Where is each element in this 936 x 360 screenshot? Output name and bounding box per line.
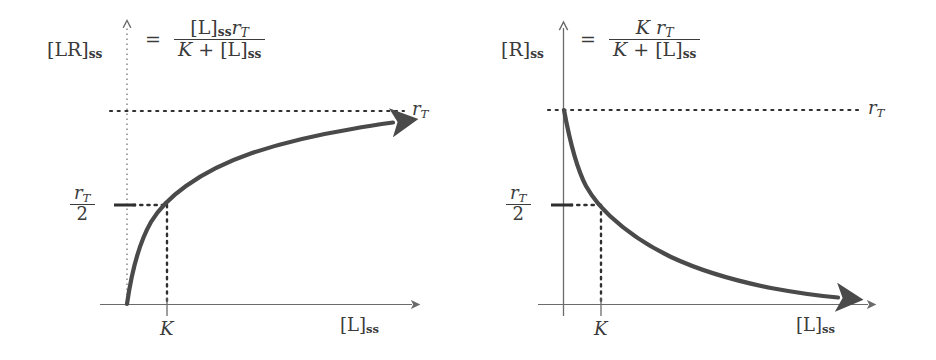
den-k-left: K <box>178 38 192 60</box>
y-axis-label-left-sub: ss <box>89 47 103 61</box>
y-axis-label-right-sub: ss <box>530 47 544 61</box>
num-k-right: K <box>636 16 650 38</box>
x-axis-label-left-base: [L] <box>340 314 366 335</box>
half-max-num-base-right: r <box>510 182 519 203</box>
den-plus-right: + <box>633 38 649 60</box>
x-axis-label-left-sub: ss <box>366 322 379 336</box>
asymptote-label-left-sub: T <box>421 107 429 121</box>
equation-left-relation: = <box>145 30 161 49</box>
equation-left-fraction: [L]ssrT K + [L]ss <box>174 18 265 61</box>
y-axis-label-left: [LR]ss <box>47 40 102 61</box>
asymptote-label-right-base: r <box>868 97 877 118</box>
half-max-den-left: 2 <box>70 204 95 223</box>
asymptote-label-left: rT <box>412 100 429 120</box>
equation-right: = K rT K + [L]ss <box>580 18 700 61</box>
equation-left: = [L]ssrT K + [L]ss <box>145 18 265 61</box>
asymptote-label-left-base: r <box>412 98 421 119</box>
half-max-num-base-left: r <box>74 182 83 203</box>
equation-left-denominator: K + [L]ss <box>174 39 265 61</box>
den-sub-left: ss <box>248 48 262 62</box>
den-bracket-left: [L] <box>220 38 247 60</box>
y-axis-label-left-base: [LR] <box>47 38 89 60</box>
half-max-fraction-left: rT 2 <box>70 184 95 223</box>
figure-root: [LR]ss = [L]ssrT K + [L]ss rT rT 2 K [L]… <box>0 0 936 360</box>
den-bracket-right: [L] <box>655 38 682 60</box>
asymptote-label-right: rT <box>868 99 885 119</box>
x-axis-label-right-sub: ss <box>822 322 835 336</box>
den-sub-right: ss <box>683 48 697 62</box>
equation-right-denominator: K + [L]ss <box>609 39 700 61</box>
num-factor-left: r <box>232 16 241 38</box>
num-bracket-left: [L] <box>190 16 217 38</box>
equation-right-relation: = <box>580 30 596 49</box>
equation-right-numerator: K rT <box>609 18 700 39</box>
asymptote-label-right-sub: T <box>877 106 885 120</box>
half-max-fraction-right: rT 2 <box>506 184 531 223</box>
equation-left-numerator: [L]ssrT <box>174 18 265 39</box>
half-max-num-left: rT <box>70 184 95 204</box>
equation-right-fraction: K rT K + [L]ss <box>609 18 700 61</box>
num-factor-right: r <box>656 16 665 38</box>
half-max-num-right: rT <box>506 184 531 204</box>
y-axis-label-right-base: [R] <box>501 38 530 60</box>
x-tick-label-left: K <box>160 320 173 338</box>
free-receptor-panel: [R]ss = K rT K + [L]ss rT rT 2 K [L]ss <box>468 0 936 360</box>
x-axis-label-left: [L]ss <box>340 316 379 336</box>
x-axis-label-right-base: [L] <box>796 314 822 335</box>
half-max-den-right: 2 <box>506 204 531 223</box>
x-tick-label-right: K <box>594 320 607 338</box>
den-plus-left: + <box>198 38 214 60</box>
y-axis-label-right: [R]ss <box>501 40 544 61</box>
den-k-right: K <box>613 38 627 60</box>
ligand-receptor-complex-panel: [LR]ss = [L]ssrT K + [L]ss rT rT 2 K [L]… <box>0 0 468 360</box>
half-max-label-left: rT 2 <box>70 184 95 223</box>
half-max-label-right: rT 2 <box>506 184 531 223</box>
x-axis-label-right: [L]ss <box>796 316 835 336</box>
decay-curve-right <box>564 110 838 298</box>
